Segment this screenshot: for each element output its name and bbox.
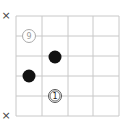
svg-text:9: 9 xyxy=(26,32,31,41)
black-stone xyxy=(23,70,36,83)
black-stone xyxy=(49,51,62,64)
white-stone-9: 9 xyxy=(23,30,36,43)
svg-text:1: 1 xyxy=(52,92,57,101)
cross-marker-top: × xyxy=(1,11,11,21)
cross-marker-bottom: × xyxy=(1,111,11,121)
white-stone-1: 1 xyxy=(49,90,62,103)
go-board: 91 xyxy=(0,0,128,128)
